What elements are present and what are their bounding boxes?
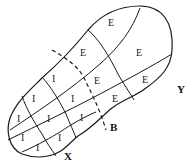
cell-label: E xyxy=(94,75,100,86)
cell-label: I xyxy=(32,93,35,104)
cell-label: E xyxy=(142,74,148,85)
grid-line-trans-3 xyxy=(88,30,134,100)
cell-label: E xyxy=(108,17,114,28)
cell-label: I xyxy=(58,132,61,143)
boundary-b-label: B xyxy=(110,121,118,133)
cell-label: I xyxy=(80,112,83,123)
end-label-y: Y xyxy=(177,83,185,95)
cell-label: E xyxy=(112,93,118,104)
cell-label: I xyxy=(21,132,24,143)
boundary-b-dashed xyxy=(52,50,106,130)
cell-label: E xyxy=(80,47,86,58)
cell-label: I xyxy=(36,142,39,153)
cell-label: I xyxy=(52,73,55,84)
cell-label: E xyxy=(136,47,142,58)
grid-diagram: E E E E E E I I I I I I I I I B X Y xyxy=(0,0,192,167)
end-label-x: X xyxy=(64,150,72,162)
grid-line-trans-2 xyxy=(42,77,76,138)
cell-label: I xyxy=(17,113,20,124)
grid-line-long-1 xyxy=(10,8,140,130)
cell-label: I xyxy=(71,93,74,104)
cell-label: I xyxy=(47,113,50,124)
